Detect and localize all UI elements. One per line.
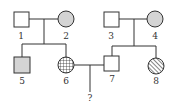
label-2: 2 xyxy=(63,31,69,41)
label-1: 1 xyxy=(18,31,24,41)
individual-8-female xyxy=(148,58,164,74)
individual-4-female xyxy=(147,11,163,27)
label-5: 5 xyxy=(19,76,25,86)
individual-1-male xyxy=(14,12,29,27)
individual-6-female xyxy=(58,57,74,73)
label-7: 7 xyxy=(109,74,115,84)
individual-5-male xyxy=(14,57,30,73)
label-3: 3 xyxy=(108,31,114,41)
unknown-child-label: ? xyxy=(88,93,93,103)
individual-2-female xyxy=(58,11,74,27)
label-4: 4 xyxy=(152,31,158,41)
individual-3-male xyxy=(104,12,119,27)
pedigree-diagram: 1 2 3 4 5 6 7 8 ? xyxy=(0,0,175,106)
individual-7-male xyxy=(104,56,119,71)
label-8: 8 xyxy=(153,76,159,86)
label-6: 6 xyxy=(63,76,69,86)
